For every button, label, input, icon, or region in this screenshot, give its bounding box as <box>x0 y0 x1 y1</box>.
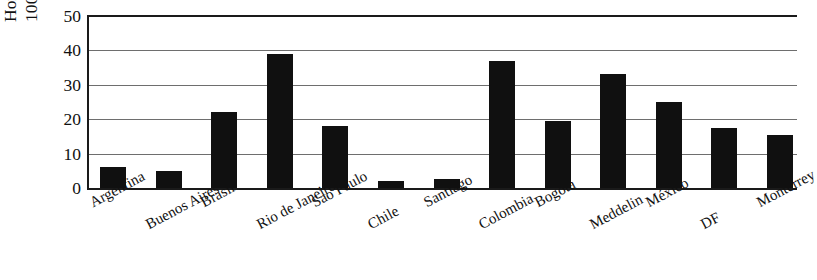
bar <box>656 102 682 188</box>
gridline-30 <box>87 85 797 86</box>
y-axis-title-line-1: Homicides per <box>0 0 21 22</box>
y-axis-line <box>87 15 89 189</box>
gridline-50 <box>87 15 797 17</box>
bar <box>211 112 237 188</box>
bar <box>378 181 404 188</box>
bar <box>489 61 515 188</box>
y-axis-title-line-2: 100,000 Inhabitants <box>20 0 42 22</box>
y-axis-tick-labels: 01020304050 <box>45 16 81 188</box>
x-tick-label: Meddelin <box>587 191 645 232</box>
y-tick-label-20: 20 <box>47 110 81 128</box>
gridline-20 <box>87 119 797 120</box>
x-tick-label: Chile <box>365 203 401 232</box>
gridline-40 <box>87 50 797 51</box>
y-tick-label-10: 10 <box>47 145 81 163</box>
bar <box>711 128 737 188</box>
x-axis-tick-labels: ArgentinaBuenos AiresBrasilRio de Janeir… <box>0 190 800 280</box>
bar <box>156 171 182 188</box>
y-tick-label-40: 40 <box>47 41 81 59</box>
x-tick-label: DF <box>698 209 722 232</box>
bar <box>267 54 293 188</box>
bar <box>600 74 626 188</box>
x-tick-label: Colombia <box>476 190 536 232</box>
y-tick-label-30: 30 <box>47 76 81 94</box>
gridline-10 <box>87 154 797 155</box>
y-tick-label-50: 50 <box>47 7 81 25</box>
plot-area <box>87 16 797 188</box>
